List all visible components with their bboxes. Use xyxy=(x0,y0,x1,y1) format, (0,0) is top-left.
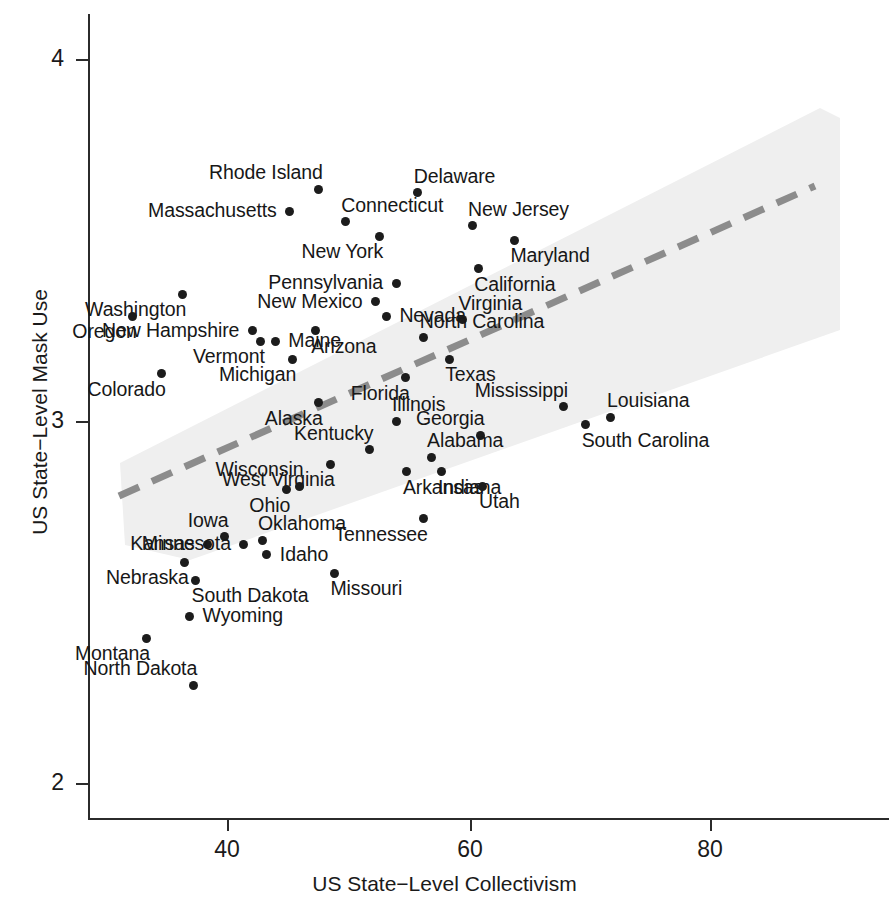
data-point xyxy=(326,460,335,469)
point-label: Colorado xyxy=(87,380,165,400)
data-point xyxy=(285,207,294,216)
y-tick-2 xyxy=(76,783,88,785)
data-point xyxy=(185,612,194,621)
point-label: Connecticut xyxy=(341,196,443,216)
point-label: Minnesota xyxy=(142,534,231,554)
point-label: New York xyxy=(302,243,384,263)
x-tick-label-40: 40 xyxy=(197,838,257,861)
data-point xyxy=(419,333,428,342)
data-point xyxy=(559,402,568,411)
y-axis-line xyxy=(88,14,90,820)
data-point xyxy=(271,337,280,346)
data-point xyxy=(314,398,323,407)
data-point xyxy=(371,297,380,306)
data-point xyxy=(142,634,151,643)
point-label: Tennessee xyxy=(334,525,427,545)
data-point xyxy=(295,482,304,491)
point-label: Mississippi xyxy=(475,381,568,401)
data-point xyxy=(606,413,615,422)
point-label: New Hampshire xyxy=(102,321,239,341)
y-tick-label-4: 4 xyxy=(36,47,64,70)
point-label: Iowa xyxy=(188,511,229,531)
point-label: Wyoming xyxy=(203,607,283,627)
x-tick-40 xyxy=(227,820,229,831)
data-point xyxy=(314,185,323,194)
data-point xyxy=(382,312,391,321)
data-point xyxy=(157,369,166,378)
data-point xyxy=(288,355,297,364)
point-label: North Dakota xyxy=(84,660,198,680)
data-point xyxy=(445,355,454,364)
y-tick-3 xyxy=(76,421,88,423)
point-label: Massachusetts xyxy=(148,201,277,221)
data-point xyxy=(375,232,384,241)
data-point xyxy=(239,540,248,549)
y-tick-4 xyxy=(76,59,88,61)
point-label: Missouri xyxy=(330,579,402,599)
x-tick-label-80: 80 xyxy=(680,838,740,861)
data-point xyxy=(419,514,428,523)
x-tick-label-60: 60 xyxy=(440,838,500,861)
point-label: Michigan xyxy=(219,366,296,386)
point-label: Alabama xyxy=(427,431,503,451)
point-label: Maryland xyxy=(510,246,589,266)
data-point xyxy=(392,417,401,426)
point-label: Georgia xyxy=(416,410,485,430)
point-label: Delaware xyxy=(414,167,496,187)
point-label: Nebraska xyxy=(106,568,189,588)
data-point xyxy=(427,453,436,462)
data-point xyxy=(402,467,411,476)
point-label: Maine xyxy=(288,332,341,352)
data-point xyxy=(189,681,198,690)
point-label: Idaho xyxy=(280,545,328,565)
data-point xyxy=(392,279,401,288)
scatter-plot-figure: 4 3 2 40 60 80 US State−Level Collectivi… xyxy=(0,0,889,914)
point-label: New Jersey xyxy=(468,200,569,220)
x-tick-60 xyxy=(470,820,472,831)
data-point xyxy=(401,373,410,382)
data-point xyxy=(365,445,374,454)
point-label: Oklahoma xyxy=(258,515,346,535)
data-point xyxy=(256,337,265,346)
data-point xyxy=(330,569,339,578)
point-label: North Carolina xyxy=(420,312,544,332)
point-label: South Carolina xyxy=(582,431,710,451)
data-point xyxy=(262,550,271,559)
x-axis-title: US State−Level Collectivism xyxy=(0,872,889,896)
data-point xyxy=(248,326,257,335)
data-point xyxy=(341,217,350,226)
data-point xyxy=(258,536,267,545)
data-point xyxy=(581,420,590,429)
y-axis-title: US State−Level Mask Use xyxy=(28,202,52,622)
regression-overlay xyxy=(0,0,889,914)
data-point xyxy=(468,221,477,230)
point-label: Louisiana xyxy=(607,392,690,412)
data-point xyxy=(180,558,189,567)
point-label: Rhode Island xyxy=(209,164,323,184)
point-label: South Dakota xyxy=(192,587,309,607)
data-point xyxy=(282,485,291,494)
point-label: Wisconsin xyxy=(215,460,303,480)
data-point xyxy=(437,467,446,476)
x-axis-line xyxy=(88,818,889,820)
point-label: Utah xyxy=(479,492,520,512)
data-point xyxy=(510,236,519,245)
point-label: Kentucky xyxy=(294,424,373,444)
x-tick-80 xyxy=(710,820,712,831)
data-point xyxy=(191,576,200,585)
data-point xyxy=(474,264,483,273)
data-point xyxy=(178,290,187,299)
y-tick-label-2: 2 xyxy=(36,771,64,794)
point-label: New Mexico xyxy=(257,292,362,312)
